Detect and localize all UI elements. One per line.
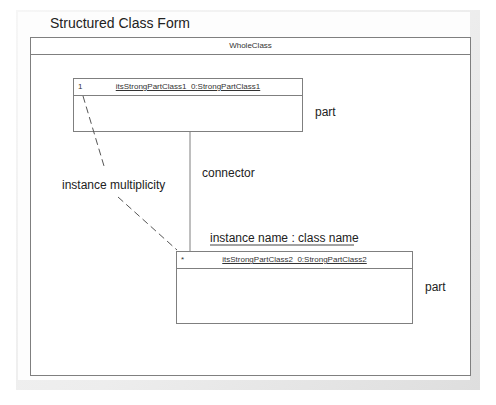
multiplicity-pointer-line-1 bbox=[83, 96, 104, 166]
instance-name-annotation: instance name : class name bbox=[210, 231, 359, 245]
part-1-annotation: part bbox=[315, 105, 336, 119]
multiplicity-pointer-line-2 bbox=[118, 197, 177, 250]
part-2-annotation: part bbox=[425, 280, 446, 294]
connector-annotation: connector bbox=[202, 166, 255, 180]
diagram-lines bbox=[0, 0, 496, 405]
instance-multiplicity-annotation: instance multiplicity bbox=[62, 178, 165, 192]
